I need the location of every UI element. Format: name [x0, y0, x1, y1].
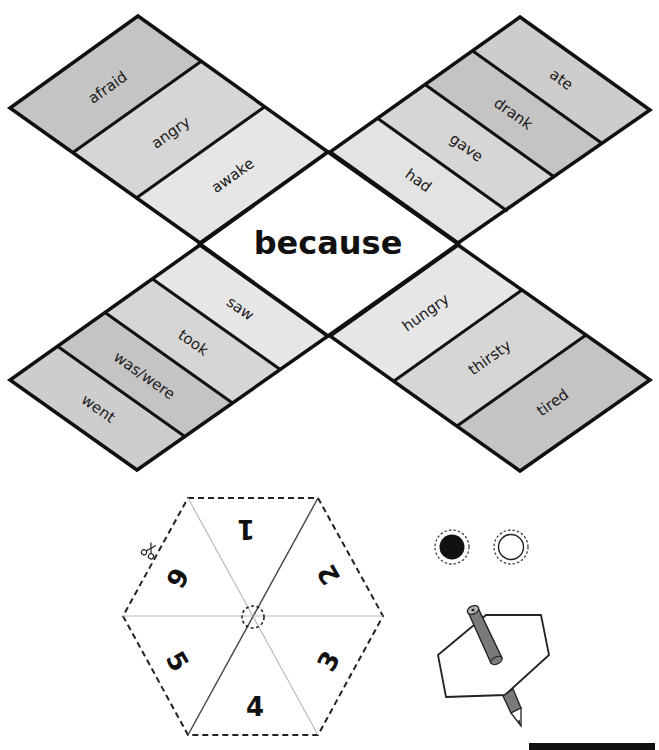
white-counter[interactable]	[494, 530, 528, 564]
counters	[435, 530, 528, 564]
spinner-pencil-illustration	[438, 604, 549, 726]
black-counter[interactable]	[435, 530, 469, 564]
pencil-tip	[503, 689, 521, 726]
center-word-because: because	[254, 224, 403, 262]
hexagon-spinner: 1 2 3 4 5 6	[123, 498, 383, 735]
spinner-number-4: 4	[246, 692, 264, 722]
footer-black-bar	[529, 743, 655, 750]
game-board-canvas: afraid angry awake ate drank gave had sa…	[0, 0, 659, 750]
spinner-number-1: 1	[237, 514, 255, 544]
